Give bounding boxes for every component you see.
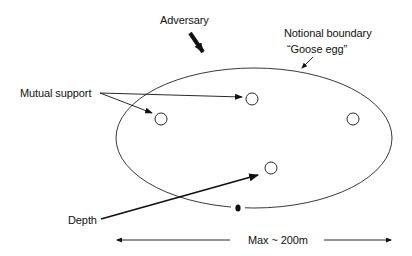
depth-label: Depth (68, 214, 97, 227)
notional-boundary-ellipse (116, 68, 392, 208)
position-circle (246, 93, 258, 105)
boundary-label-line2: “Goose egg” (287, 43, 347, 56)
boundary-pointer-arrow (302, 57, 313, 68)
boundary-label-line1: Notional boundary (284, 27, 372, 40)
position-circle (265, 162, 277, 174)
max-distance-label: Max ~ 200m (248, 234, 308, 247)
adversary-label: Adversary (160, 14, 209, 27)
position-circle (347, 113, 359, 125)
entry-point-dot (235, 204, 240, 211)
adversary-arrow (190, 33, 203, 52)
position-circle (155, 113, 167, 125)
mutual-support-arrow-1 (100, 93, 242, 97)
depth-arrow (101, 175, 258, 219)
mutual-support-label: Mutual support (20, 87, 91, 100)
